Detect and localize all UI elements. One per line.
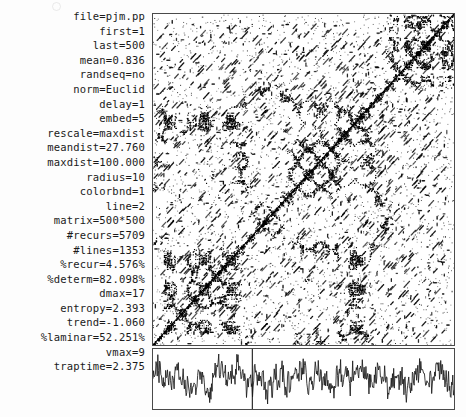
- parameter-row: traptime=2.375: [0, 359, 145, 374]
- parameter-row: colorbnd=1: [0, 184, 145, 199]
- parameter-value: 52.251%: [99, 331, 145, 343]
- parameter-row: radius=10: [0, 170, 145, 185]
- parameter-key: rescale: [47, 127, 93, 139]
- parameter-key: trend: [67, 316, 100, 328]
- parameter-row: trend=-1.060: [0, 315, 145, 330]
- parameter-key: delay: [99, 98, 132, 110]
- parameter-value: 82.098%: [99, 273, 145, 285]
- recurrence-plot-panel: [152, 13, 455, 346]
- parameter-row: #recurs=5709: [0, 228, 145, 243]
- parameter-row: delay=1: [0, 97, 145, 112]
- parameter-value: Euclid: [106, 83, 145, 95]
- parameter-key: meandist: [47, 141, 99, 153]
- parameter-row: %determ=82.098%: [0, 272, 145, 287]
- parameter-value: 0.836: [112, 54, 145, 66]
- parameter-value: 4.576%: [106, 258, 145, 270]
- parameter-key: randseq: [80, 68, 126, 80]
- parameter-value: 5: [138, 112, 145, 124]
- parameter-row: %recur=4.576%: [0, 257, 145, 272]
- parameter-row: embed=5: [0, 111, 145, 126]
- parameter-value: no: [132, 68, 145, 80]
- parameter-value: 2.393: [112, 302, 145, 314]
- parameter-row: norm=Euclid: [0, 82, 145, 97]
- parameter-key: dmax: [99, 287, 125, 299]
- parameter-key: traptime: [54, 360, 106, 372]
- parameter-row: maxdist=100.000: [0, 155, 145, 170]
- parameter-row: entropy=2.393: [0, 301, 145, 316]
- parameter-value: 2: [138, 200, 145, 212]
- parameter-key: file: [73, 10, 99, 22]
- time-series-canvas: [153, 349, 454, 409]
- parameter-key: colorbnd: [80, 185, 132, 197]
- parameter-value: 1: [138, 25, 145, 37]
- parameter-row: file=pjm.pp: [0, 9, 145, 24]
- parameter-row: %laminar=52.251%: [0, 330, 145, 345]
- parameter-value: 2.375: [112, 360, 145, 372]
- parameter-value: pjm.pp: [106, 10, 145, 22]
- recurrence-plot-canvas: [153, 14, 454, 345]
- parameter-value: maxdist: [99, 127, 145, 139]
- parameter-key: %recur: [60, 258, 99, 270]
- parameter-row: dmax=17: [0, 286, 145, 301]
- parameter-row: #lines=1353: [0, 243, 145, 258]
- parameter-key: entropy: [60, 302, 106, 314]
- parameter-value: 9: [138, 346, 145, 358]
- parameter-key: last: [93, 39, 119, 51]
- parameter-row: meandist=27.760: [0, 140, 145, 155]
- parameter-key: #recurs: [67, 229, 113, 241]
- parameter-value: 500*500: [99, 214, 145, 226]
- parameter-key: first: [99, 25, 132, 37]
- parameter-row: randseq=no: [0, 67, 145, 82]
- parameter-row: first=1: [0, 24, 145, 39]
- parameter-key: matrix: [54, 214, 93, 226]
- parameter-value: 100.000: [99, 156, 145, 168]
- parameter-row: matrix=500*500: [0, 213, 145, 228]
- parameter-key: line: [106, 200, 132, 212]
- parameter-row: mean=0.836: [0, 53, 145, 68]
- parameter-key: %laminar: [41, 331, 93, 343]
- parameter-value: 1: [138, 98, 145, 110]
- parameter-value: 27.760: [106, 141, 145, 153]
- parameter-key: #lines: [73, 244, 112, 256]
- parameter-row: last=500: [0, 38, 145, 53]
- parameter-key: %determ: [47, 273, 93, 285]
- parameter-key: embed: [99, 112, 132, 124]
- parameter-value: 1: [138, 185, 145, 197]
- parameter-value: -1.060: [106, 316, 145, 328]
- parameter-key: mean: [80, 54, 106, 66]
- parameter-key: radius: [86, 171, 125, 183]
- parameter-value: 500: [125, 39, 145, 51]
- parameter-key: vmax: [106, 346, 132, 358]
- parameter-row: line=2: [0, 199, 145, 214]
- screenshot-root: file=pjm.ppfirst=1last=500mean=0.836rand…: [0, 0, 466, 417]
- parameter-row: rescale=maxdist: [0, 126, 145, 141]
- time-series-panel: [152, 348, 455, 410]
- parameter-key: norm: [73, 83, 99, 95]
- parameter-value: 17: [132, 287, 145, 299]
- parameter-row: vmax=9: [0, 345, 145, 360]
- parameter-value: 1353: [119, 244, 145, 256]
- parameter-key: maxdist: [47, 156, 93, 168]
- parameter-list: file=pjm.ppfirst=1last=500mean=0.836rand…: [0, 9, 145, 374]
- parameter-value: 10: [132, 171, 145, 183]
- parameter-value: 5709: [119, 229, 145, 241]
